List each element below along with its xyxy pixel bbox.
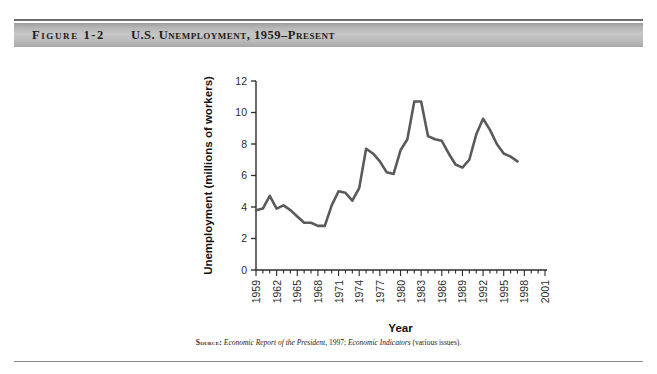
source-publication-1: Economic Report of the President, (224, 338, 327, 347)
figure-number: Figure 1-2 (32, 28, 105, 43)
y-axis-tick-label: 10 (235, 106, 247, 118)
header-top-rule (14, 19, 643, 21)
x-axis-tick-label: 1980 (395, 280, 407, 304)
x-axis-tick-label: 1998 (518, 280, 530, 304)
x-axis-tick-label: 1995 (498, 280, 510, 304)
x-axis-title: Year (388, 322, 413, 333)
x-axis-tick-label: 1962 (271, 280, 283, 304)
source-year: 1997; (327, 338, 348, 347)
y-axis-tick-label: 4 (241, 201, 247, 213)
x-axis-tick-label: 1959 (250, 280, 262, 304)
source-publication-2: Economic Indicators (348, 338, 411, 347)
x-axis-tick-label: 1965 (291, 280, 303, 304)
x-axis-tick-label: 1989 (456, 280, 468, 304)
source-label: Source: (196, 338, 222, 347)
y-axis-tick-label: 0 (241, 264, 247, 276)
figure-header-bar: Figure 1-2 U.S. Unemployment, 1959–Prese… (14, 23, 643, 47)
source-suffix: (various issues). (411, 338, 462, 347)
source-note: Source: Economic Report of the President… (0, 338, 657, 347)
x-axis-tick-label: 1968 (312, 280, 324, 304)
y-axis-tick-label: 12 (235, 75, 247, 87)
data-series-line (256, 101, 517, 225)
x-axis-tick-label: 1986 (436, 280, 448, 304)
x-axis-tick-label: 1992 (477, 280, 489, 304)
figure-bottom-rule (14, 361, 643, 362)
x-axis-tick-label: 1971 (333, 280, 345, 304)
y-axis-title: Unemployment (millions of workers) (202, 76, 214, 275)
x-axis-tick-label: 1977 (374, 280, 386, 304)
figure-title: U.S. Unemployment, 1959–Present (131, 28, 335, 43)
y-axis-tick-label: 6 (241, 169, 247, 181)
x-axis-tick-label: 2001 (539, 280, 551, 304)
figure-container: Figure 1-2 U.S. Unemployment, 1959–Prese… (0, 0, 657, 374)
y-axis-tick-label: 8 (241, 138, 247, 150)
x-axis-tick-label: 1983 (415, 280, 427, 304)
y-axis-tick-label: 2 (241, 232, 247, 244)
unemployment-line-chart: 0246810121959196219651968197119741977198… (14, 47, 643, 333)
x-axis-tick-label: 1974 (353, 280, 365, 304)
chart-area: 0246810121959196219651968197119741977198… (14, 47, 643, 333)
